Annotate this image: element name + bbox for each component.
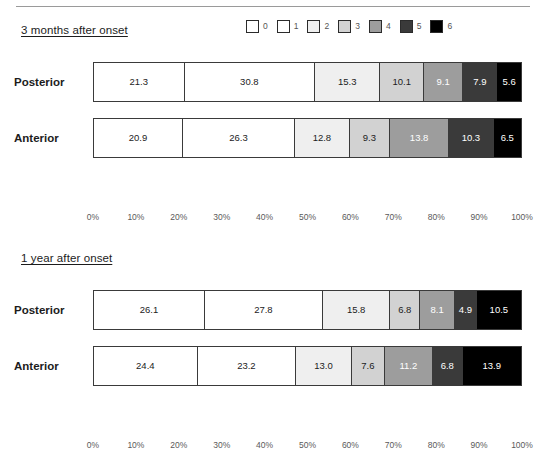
legend-item: 5 [400, 20, 422, 33]
bar-segment: 12.8 [295, 119, 350, 157]
bar-segment-value: 9.3 [363, 133, 376, 143]
section-title-1-year: 1 year after onset [21, 252, 112, 264]
bar-segment-value: 27.8 [254, 305, 273, 315]
bar-segment-value: 10.5 [490, 305, 509, 315]
bar-segment: 5.6 [497, 63, 522, 101]
bar-segment: 6.8 [390, 291, 420, 329]
stacked-bar: 24.423.213.07.611.26.813.9 [93, 346, 522, 386]
axis-tick-label: 0% [87, 440, 99, 450]
axis-tick-label: 50% [299, 212, 316, 222]
legend-swatch-icon [430, 20, 443, 33]
axis-tick-label: 80% [428, 440, 445, 450]
legend-item: 4 [369, 20, 391, 33]
legend-label: 3 [355, 22, 360, 31]
bar-segment: 24.4 [93, 347, 198, 385]
bar-segment-value: 24.4 [136, 361, 155, 371]
axis-tick-label: 50% [299, 440, 316, 450]
legend-item: 1 [277, 20, 299, 33]
x-axis-1-year: 0%10%20%30%40%50%60%70%80%90%100% [93, 440, 522, 454]
bar-segment-value: 12.8 [313, 133, 332, 143]
legend-label: 1 [294, 22, 299, 31]
bar-segment: 10.3 [449, 119, 493, 157]
bar-segment: 6.5 [494, 119, 522, 157]
stacked-bar: 26.127.815.86.88.14.910.5 [93, 290, 522, 330]
bar-segment-value: 13.0 [314, 361, 333, 371]
bar-segment: 26.1 [93, 291, 205, 329]
bar-segment-value: 10.1 [392, 77, 411, 87]
legend-swatch-icon [400, 20, 413, 33]
legend-label: 0 [263, 22, 268, 31]
legend-item: 3 [338, 20, 360, 33]
x-axis-3-months: 0%10%20%30%40%50%60%70%80%90%100% [93, 212, 522, 226]
bar-segment-value: 6.5 [501, 133, 514, 143]
axis-tick-label: 90% [471, 440, 488, 450]
top-divider-rule [16, 6, 530, 7]
bar-row-label: Anterior [14, 338, 90, 394]
legend-item: 0 [246, 20, 268, 33]
bar-row-label: Posterior [14, 282, 90, 338]
bar-segment: 10.1 [380, 63, 423, 101]
bar-segment: 23.2 [198, 347, 297, 385]
axis-tick-label: 90% [471, 212, 488, 222]
stacked-bar: 20.926.312.89.313.810.36.5 [93, 118, 522, 158]
axis-tick-label: 10% [127, 212, 144, 222]
bar-segment-value: 15.3 [338, 77, 357, 87]
bar-segment-value: 9.1 [436, 77, 449, 87]
axis-tick-label: 40% [256, 212, 273, 222]
bar-segment: 27.8 [205, 291, 323, 329]
bar-segment: 15.8 [323, 291, 391, 329]
bar-segment: 20.9 [93, 119, 183, 157]
axis-tick-label: 20% [170, 440, 187, 450]
legend-item: 2 [307, 20, 329, 33]
axis-tick-label: 20% [170, 212, 187, 222]
axis-tick-label: 80% [428, 212, 445, 222]
axis-tick-label: 10% [127, 440, 144, 450]
bar-segment-value: 26.1 [140, 305, 159, 315]
legend-swatch-icon [338, 20, 351, 33]
bar-segment: 13.0 [296, 347, 352, 385]
legend-label: 5 [417, 22, 422, 31]
bar-segment: 8.1 [420, 291, 455, 329]
legend-swatch-icon [246, 20, 259, 33]
bar-segment-value: 7.6 [361, 361, 374, 371]
axis-tick-label: 30% [213, 440, 230, 450]
bar-segment-value: 13.8 [410, 133, 429, 143]
bar-segment: 30.8 [185, 63, 316, 101]
legend-label: 6 [447, 22, 452, 31]
axis-tick-label: 30% [213, 212, 230, 222]
bar-segment: 11.2 [385, 347, 433, 385]
section-title-3-months: 3 months after onset [21, 24, 128, 36]
bar-segment-value: 23.2 [237, 361, 256, 371]
axis-tick-label: 100% [511, 212, 533, 222]
bar-segment: 10.5 [477, 291, 522, 329]
bar-segment-value: 11.2 [400, 361, 418, 371]
stacked-bar: 21.330.815.310.19.17.95.6 [93, 62, 522, 102]
bar-segment-value: 5.6 [503, 77, 516, 87]
bar-segment: 13.8 [390, 119, 449, 157]
bar-row-label: Anterior [14, 110, 90, 166]
legend-item: 6 [430, 20, 452, 33]
chart-page: 0123456 3 months after onset Posterior21… [0, 0, 544, 472]
bar-segment-value: 10.3 [462, 133, 481, 143]
bar-segment: 7.9 [463, 63, 497, 101]
bar-segment-value: 4.9 [459, 305, 472, 315]
bar-segment: 15.3 [315, 63, 380, 101]
bar-segment-value: 26.3 [229, 133, 248, 143]
bar-segment: 26.3 [183, 119, 295, 157]
bar-segment: 4.9 [455, 291, 477, 329]
bar-segment-value: 13.9 [483, 361, 502, 371]
axis-tick-label: 70% [385, 212, 402, 222]
bar-segment: 9.3 [350, 119, 390, 157]
bar-segment: 6.8 [433, 347, 463, 385]
legend-swatch-icon [277, 20, 290, 33]
bar-segment-value: 20.9 [129, 133, 148, 143]
axis-tick-label: 60% [342, 440, 359, 450]
bar-segment-value: 6.8 [398, 305, 411, 315]
bar-segment: 7.6 [352, 347, 385, 385]
bar-segment-value: 21.3 [130, 77, 149, 87]
legend: 0123456 [246, 20, 461, 33]
axis-tick-label: 40% [256, 440, 273, 450]
axis-tick-label: 100% [511, 440, 533, 450]
axis-tick-label: 0% [87, 212, 99, 222]
bar-row-label: Posterior [14, 54, 90, 110]
